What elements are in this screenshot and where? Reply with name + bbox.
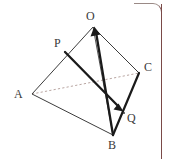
- vertex-label-P: P: [54, 37, 61, 49]
- page-border-corner: [134, 3, 162, 17]
- edge-AB: [32, 94, 113, 135]
- vector-BO: [96, 32, 113, 135]
- geometry-figure: O P C A Q B: [0, 0, 169, 159]
- geometry-canvas: [0, 0, 169, 159]
- arrowhead-PQ-icon: [114, 104, 124, 112]
- vector-PQ: [65, 52, 119, 107]
- point-P-marker: [64, 51, 66, 53]
- vertex-label-O: O: [86, 10, 95, 22]
- point-Q-marker: [123, 112, 125, 114]
- page-border-right-rule: [161, 4, 162, 159]
- vertex-label-C: C: [144, 61, 152, 73]
- vertex-label-B: B: [108, 139, 116, 151]
- vertex-label-Q: Q: [127, 112, 136, 124]
- vertex-label-A: A: [14, 88, 23, 100]
